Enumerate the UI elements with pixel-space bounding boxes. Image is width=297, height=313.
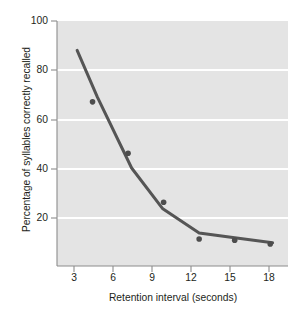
x-axis-ticks [74, 266, 269, 272]
plot-canvas [0, 0, 297, 313]
y-axis-ticks [51, 21, 57, 218]
data-point [161, 200, 167, 206]
data-point [90, 99, 96, 105]
forgetting-curve-chart: Percentage of syllables correctly recall… [0, 0, 297, 313]
plot-background [57, 21, 288, 266]
data-point [267, 241, 273, 247]
data-point [196, 236, 202, 242]
data-point [125, 151, 131, 157]
data-point [232, 237, 238, 243]
